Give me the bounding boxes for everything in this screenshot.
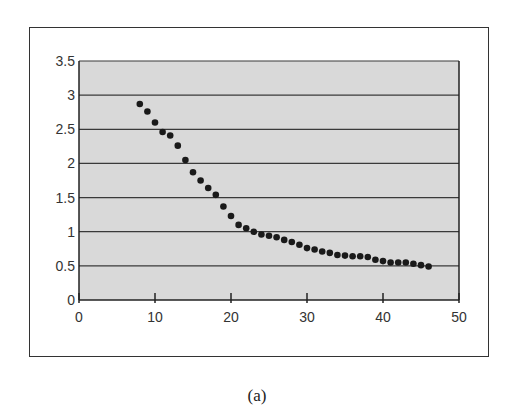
data-point (213, 192, 220, 199)
plot-area: 0102030405000.511.522.533.5 (56, 53, 467, 325)
data-point (380, 258, 387, 265)
figure-caption: (a) (0, 386, 514, 406)
data-point (266, 233, 273, 240)
x-tick-label: 0 (75, 309, 83, 325)
data-point (281, 237, 288, 244)
data-point (197, 177, 204, 184)
data-point (175, 142, 182, 149)
y-tick-label: 3 (67, 87, 75, 103)
data-point (296, 241, 303, 248)
y-tick-label: 2.5 (56, 121, 76, 137)
data-point (167, 132, 174, 139)
y-tick-label: 1 (67, 224, 75, 240)
x-tick-label: 40 (375, 309, 391, 325)
y-tick-label: 3.5 (56, 53, 76, 69)
data-point (137, 101, 144, 108)
data-point (251, 228, 258, 235)
data-point (182, 157, 189, 164)
y-tick-label: 0.5 (56, 258, 76, 274)
data-point (144, 108, 151, 115)
x-tick-label: 30 (299, 309, 315, 325)
scatter-chart: 0102030405000.511.522.533.5 (0, 0, 514, 407)
data-point (205, 185, 212, 192)
data-point (410, 261, 417, 268)
y-tick-label: 2 (67, 155, 75, 171)
data-point (243, 225, 250, 232)
data-point (311, 246, 318, 253)
data-point (403, 259, 410, 266)
data-point (304, 245, 311, 252)
data-point (342, 252, 349, 259)
data-point (159, 129, 166, 136)
data-point (258, 231, 265, 238)
data-point (327, 250, 334, 257)
data-point (349, 253, 356, 260)
data-point (395, 259, 402, 266)
x-tick-label: 50 (451, 309, 467, 325)
data-point (152, 119, 159, 126)
data-point (289, 239, 296, 246)
data-point (425, 263, 432, 270)
data-point (387, 259, 394, 266)
y-tick-label: 1.5 (56, 190, 76, 206)
data-point (228, 213, 235, 220)
data-point (357, 253, 364, 260)
data-point (190, 169, 197, 176)
data-point (319, 248, 326, 255)
plot-background (79, 61, 459, 300)
data-point (235, 222, 242, 229)
data-point (220, 203, 227, 210)
data-point (418, 262, 425, 269)
data-point (334, 252, 341, 259)
data-point (365, 254, 372, 261)
data-point (372, 256, 379, 263)
x-tick-label: 20 (223, 309, 239, 325)
y-tick-label: 0 (67, 292, 75, 308)
data-point (273, 234, 280, 241)
x-tick-label: 10 (147, 309, 163, 325)
